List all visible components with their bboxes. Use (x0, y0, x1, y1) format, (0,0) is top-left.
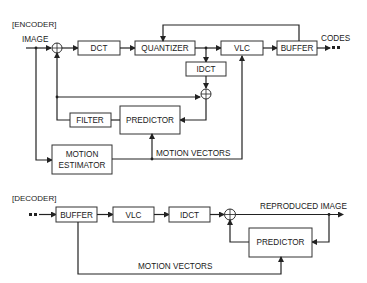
decoder-vlc-label: VLC (126, 211, 142, 220)
decoder-idct-label: IDCT (180, 211, 199, 220)
encoder-input-label: IMAGE (22, 35, 49, 44)
decoder-input-dot (29, 213, 32, 216)
codes-dot (332, 46, 335, 49)
motion-estimator-label-1: MOTION (66, 150, 99, 159)
decoder-predictor-label: PREDICTOR (256, 238, 304, 247)
motion-estimator-label-2: ESTIMATOR (58, 161, 105, 170)
encoder-predictor-label: PREDICTOR (126, 116, 174, 125)
encoder-motion-vectors-label: MOTION VECTORS (156, 149, 231, 158)
decoder-heading: [DECODER] (12, 194, 56, 203)
encoder-adder-2 (201, 89, 211, 99)
idct-label: IDCT (196, 65, 215, 74)
encoder-buffer-label: BUFFER (281, 44, 314, 53)
quantizer-label: QUANTIZER (141, 44, 188, 53)
reproduced-image-label: REPRODUCED IMAGE (260, 202, 347, 211)
decoder-buffer-label: BUFFER (60, 211, 93, 220)
codes-dot (337, 46, 340, 49)
codec-block-diagram: [ENCODER] IMAGE DCT QUANTIZER VLC BUFFER… (0, 0, 367, 283)
encoder-heading: [ENCODER] (12, 20, 56, 29)
decoder-input-dot (34, 213, 37, 216)
encoder-adder-1 (52, 43, 62, 53)
decoder-motion-vectors-label: MOTION VECTORS (138, 262, 213, 271)
decoder-adder (225, 209, 236, 220)
vlc-label: VLC (234, 44, 250, 53)
buffer-feedback-line (163, 25, 299, 41)
codes-label: CODES (321, 34, 351, 43)
dct-label: DCT (91, 44, 108, 53)
filter-label: FILTER (76, 116, 104, 125)
